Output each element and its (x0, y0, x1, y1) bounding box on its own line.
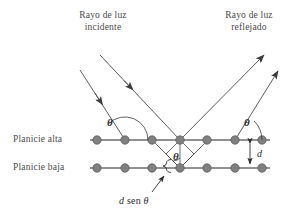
reflected-ray-caption: Rayo de luz reflejado (196, 9, 302, 33)
left-theta-label: θ (107, 116, 113, 128)
incident-ray-2-arrow (124, 81, 133, 91)
atom (176, 136, 184, 144)
incident-ray-group (80, 55, 180, 140)
reflected-ray-2 (235, 71, 278, 140)
incident-ray-caption: Rayo de luz incidente (48, 9, 158, 33)
path-difference-brace (163, 160, 171, 173)
atom (148, 164, 156, 172)
d-spacing-label: d (257, 148, 262, 159)
left-theta-arc (109, 117, 148, 140)
incident-ray-caption-line1: Rayo de luz (48, 9, 158, 21)
path-difference-annotation (152, 160, 171, 193)
lower-plane-label: Planicie baja (13, 162, 64, 172)
atom (203, 136, 211, 144)
atom (231, 136, 239, 144)
atom (258, 164, 266, 172)
reflected-ray-caption-line2: reflejado (196, 21, 302, 33)
right-theta-label: θ (244, 116, 250, 128)
path-difference-fn: sen (127, 195, 141, 206)
atom (231, 164, 239, 172)
upper-plane-label: Planicie alta (13, 134, 62, 144)
incident-ray-1-arrow (95, 93, 103, 105)
path-difference-label: d sen θ (119, 195, 149, 206)
atom (93, 164, 101, 172)
atom (121, 164, 129, 172)
reflected-ray-1 (180, 55, 264, 140)
atom (203, 164, 211, 172)
atom (93, 136, 101, 144)
atom (148, 136, 156, 144)
atom (176, 164, 184, 172)
atom (121, 136, 129, 144)
path-difference-pointer (152, 176, 164, 192)
incident-ray-1 (80, 70, 125, 140)
angle-arc-group (109, 117, 262, 140)
reflected-ray-group (180, 55, 278, 140)
reflected-ray-caption-line1: Rayo de luz (196, 9, 302, 21)
inner-theta-label: θ (173, 150, 179, 162)
path-difference-angle: θ (144, 195, 149, 206)
incident-ray-caption-line2: incidente (48, 21, 158, 33)
figure-canvas: Rayo de luz incidente Rayo de luz reflej… (0, 0, 306, 216)
